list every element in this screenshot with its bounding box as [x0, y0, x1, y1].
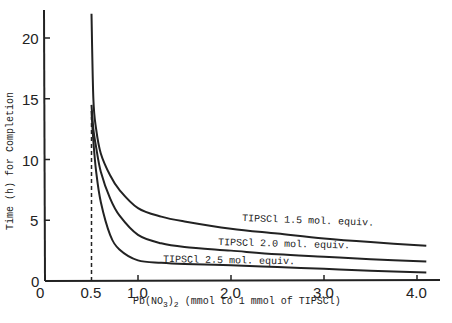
- x-tick-label: 4.0: [406, 284, 427, 301]
- y-tick-label: 5: [30, 212, 38, 229]
- x-tick-label: 0: [36, 284, 44, 301]
- series-label-2: TIPSCl 2.0 mol. equiv.: [218, 237, 350, 251]
- labels: TIPSCl 1.5 mol. equiv.TIPSCl 2.0 mol. eq…: [163, 213, 374, 267]
- x-axis-label: Pb(NO3)2 (mmol to 1 mmol of TIPSCl): [133, 296, 341, 309]
- series-label-3: TIPSCl 2.5 mol. equiv.: [163, 254, 295, 267]
- series-line-1: [92, 14, 427, 246]
- y-axis-label: Time (h) for Completion: [5, 92, 16, 230]
- x-tick-label: 0.5: [81, 284, 102, 301]
- y-tick-label: 15: [22, 91, 39, 108]
- x-axis-line: [45, 280, 440, 281]
- chart: 0510152000.51.02.03.04.0 TIPSCl 1.5 mol.…: [0, 0, 452, 323]
- y-tick-label: 10: [22, 152, 39, 169]
- y-axis-line: [44, 10, 45, 281]
- series-label-1: TIPSCl 1.5 mol. equiv.: [242, 213, 374, 229]
- curves: [92, 14, 427, 273]
- y-tick-label: 20: [22, 30, 39, 47]
